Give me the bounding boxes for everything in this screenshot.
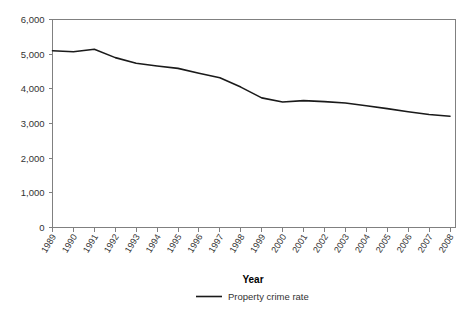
x-tick-label: 2007 — [416, 232, 435, 254]
x-tick-label: 1989 — [39, 232, 58, 254]
x-tick-label: 2001 — [290, 232, 309, 254]
y-tick-label: 0 — [39, 222, 44, 233]
chart-canvas: 01,0002,0003,0004,0005,0006,000 19891990… — [0, 0, 470, 311]
x-tick-label: 2006 — [395, 232, 414, 254]
x-tick-label: 2004 — [353, 232, 372, 254]
y-tick-label: 3,000 — [21, 118, 45, 129]
chart-legend: Property crime rate — [196, 291, 309, 302]
y-tick-label: 1,000 — [21, 187, 45, 198]
x-tick-label: 1993 — [123, 232, 142, 254]
y-tick-label: 5,000 — [21, 49, 45, 60]
x-tick-label: 2000 — [269, 232, 288, 254]
x-tick-label: 2003 — [332, 232, 351, 254]
y-tick-label: 2,000 — [21, 153, 45, 164]
x-axis-title: Year — [242, 274, 263, 285]
x-tick-label: 1994 — [144, 232, 163, 254]
series-line-property-crime-rate — [53, 49, 451, 116]
x-tick-label: 2005 — [374, 232, 393, 254]
x-tick-label: 1990 — [60, 232, 79, 254]
plot-frame — [53, 20, 456, 228]
x-tick-label: 2002 — [311, 232, 330, 254]
y-axis: 01,0002,0003,0004,0005,0006,000 — [21, 14, 53, 233]
x-tick-label: 1999 — [248, 232, 267, 254]
x-tick-label: 1997 — [206, 232, 225, 254]
x-tick-label: 1996 — [186, 232, 205, 254]
x-tick-label: 2008 — [437, 232, 456, 254]
x-axis: 1989199019911992199319941995199619971998… — [39, 228, 456, 255]
y-tick-label: 6,000 — [21, 14, 45, 25]
x-tick-label: 1992 — [102, 232, 121, 254]
x-tick-label: 1991 — [81, 232, 100, 254]
property-crime-rate-line-chart: 01,0002,0003,0004,0005,0006,000 19891990… — [0, 0, 470, 311]
x-tick-label: 1998 — [227, 232, 246, 254]
y-tick-label: 4,000 — [21, 83, 45, 94]
legend-label: Property crime rate — [228, 291, 309, 302]
x-tick-label: 1995 — [165, 232, 184, 254]
data-series-group — [53, 49, 451, 116]
